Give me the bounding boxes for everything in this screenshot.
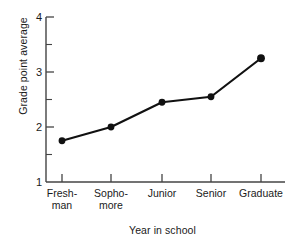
data-point-senior <box>208 93 215 100</box>
data-point-graduate <box>257 54 265 62</box>
line-chart: Grade point average 4 3 2 1 <box>0 0 293 246</box>
data-markers <box>59 54 265 144</box>
x-tick-label-graduate: Graduate <box>229 188 293 200</box>
data-point-freshman <box>59 137 66 144</box>
x-ticks <box>62 174 261 182</box>
data-point-sophomore <box>108 124 115 131</box>
data-point-junior <box>159 99 166 106</box>
x-axis-title: Year in school <box>40 224 285 236</box>
y-major-ticks <box>46 17 54 127</box>
y-minor-ticks <box>46 45 52 155</box>
